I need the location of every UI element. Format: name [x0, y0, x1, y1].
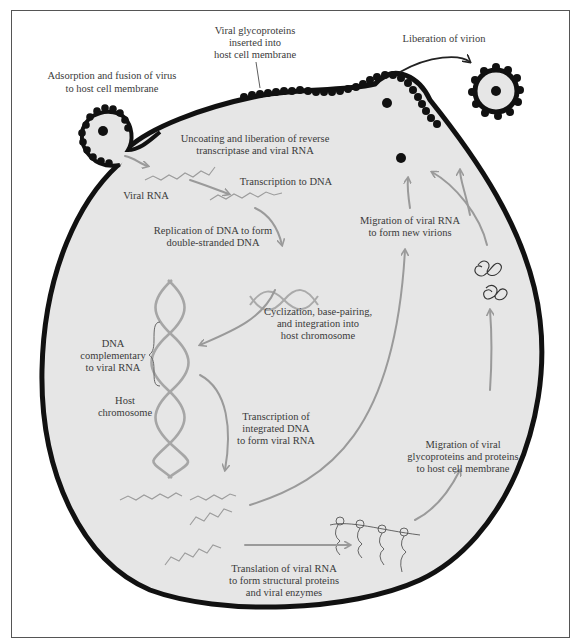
label-migration-rna: Migration of viral RNAto form new virion…	[360, 215, 460, 238]
label-uncoating: Uncoating and liberation of reversetrans…	[181, 133, 330, 156]
virion-core	[396, 153, 406, 163]
label-viral-rna: Viral RNA	[123, 190, 169, 201]
label-transcription-integrated: Transcription ofintegrated DNAto form vi…	[237, 411, 315, 446]
label-transcription-dna: Transcription to DNA	[240, 176, 333, 187]
label-liberation: Liberation of virion	[403, 33, 487, 44]
budding-virion-core	[382, 98, 392, 108]
retrovirus-lifecycle-diagram: Adsorption and fusion of virusto host ce…	[0, 0, 575, 644]
label-replication: Replication of DNA to formdouble-strande…	[154, 225, 272, 248]
